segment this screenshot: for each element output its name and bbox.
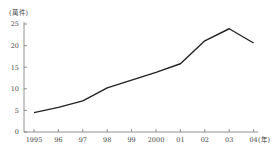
x-ticks: 199596979899200001020304 (26, 129, 258, 144)
y-tick-label: 5 (15, 107, 19, 115)
y-tick-label: 10 (11, 85, 19, 93)
x-tick-label: 98 (103, 136, 111, 144)
y-tick-label: 20 (11, 42, 19, 50)
y-tick-label: 0 (15, 128, 19, 136)
x-tick-label: 01 (176, 136, 184, 144)
line-chart: (萬件) 0510152025 199596979899200001020304… (0, 0, 275, 153)
x-tick-label: 03 (225, 136, 233, 144)
x-tick-label: 99 (127, 136, 135, 144)
x-tick-label: 97 (79, 136, 87, 144)
data-points (34, 29, 254, 113)
x-tick-label: 2000 (148, 136, 165, 144)
y-ticks: 0510152025 (11, 20, 27, 136)
x-tick-label: 96 (54, 136, 62, 144)
y-tick-label: 25 (11, 20, 19, 28)
x-tick-label: 04 (249, 136, 257, 144)
series-line (34, 29, 254, 113)
x-tick-label: 1995 (26, 136, 43, 144)
y-axis-unit-label: (萬件) (9, 8, 29, 17)
y-tick-label: 15 (11, 64, 19, 72)
x-axis-unit-label: (年) (258, 135, 271, 144)
x-tick-label: 02 (201, 136, 209, 144)
